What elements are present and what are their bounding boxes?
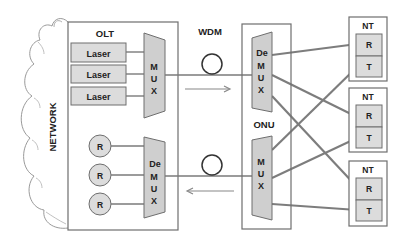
laser-3: Laser (71, 87, 126, 105)
onu-mux: M U X (252, 136, 272, 220)
svg-text:X: X (258, 85, 264, 95)
wdm-label: WDM (198, 26, 222, 37)
olt-label: OLT (96, 28, 114, 39)
receiver-2: R (89, 164, 111, 186)
cloud-outline (21, 19, 68, 229)
receiver-3: R (89, 193, 111, 215)
distribution-lines (272, 44, 357, 210)
svg-text:U: U (151, 184, 158, 194)
svg-text:R: R (366, 40, 372, 50)
nt-3: NT R T (349, 161, 387, 226)
svg-text:M: M (257, 61, 265, 71)
olt-demux: De M U X (144, 137, 165, 218)
nt-1: NT R T (349, 17, 387, 81)
svg-text:R: R (97, 142, 103, 152)
svg-text:X: X (151, 86, 157, 96)
svg-text:De: De (256, 48, 268, 58)
wdm-pon-diagram: NETWORK OLT Laser Laser Laser M U X (0, 0, 397, 243)
olt-mux: M U X (144, 33, 165, 118)
svg-text:T: T (366, 206, 372, 216)
svg-text:M: M (257, 157, 265, 167)
downstream-arrow-icon (185, 86, 230, 92)
nt-label: NT (362, 92, 374, 102)
receiver-1: R (89, 135, 111, 157)
svg-text:R: R (366, 111, 372, 121)
laser-1: Laser (71, 43, 126, 62)
network-label: NETWORK (47, 102, 58, 151)
nt-2: NT R T (349, 88, 387, 152)
svg-text:U: U (151, 74, 158, 84)
line-demux-nt1-r (272, 44, 357, 55)
svg-text:De: De (149, 159, 161, 169)
laser-2: Laser (71, 65, 126, 83)
line-mux-nt3-t (272, 204, 357, 210)
svg-text:U: U (258, 73, 265, 83)
olt: OLT Laser Laser Laser M U X R (68, 22, 178, 230)
svg-text:Laser: Laser (86, 70, 111, 80)
svg-text:M: M (150, 62, 158, 72)
svg-text:Laser: Laser (86, 49, 111, 59)
svg-text:R: R (366, 184, 372, 194)
fiber-spool-icon (202, 155, 222, 175)
svg-text:T: T (366, 62, 372, 72)
svg-text:R: R (97, 171, 103, 181)
svg-text:T: T (366, 133, 372, 143)
network-cloud: NETWORK (21, 19, 68, 229)
onu: ONU De M U X M U X (242, 24, 291, 229)
svg-text:Laser: Laser (86, 92, 111, 102)
upstream-arrow-icon (187, 188, 234, 194)
onu-label: ONU (253, 119, 274, 130)
svg-text:R: R (97, 200, 103, 210)
nt-label: NT (362, 21, 374, 31)
svg-text:X: X (151, 196, 157, 206)
svg-text:U: U (258, 169, 265, 179)
svg-text:X: X (258, 181, 264, 191)
onu-demux: De M U X (252, 32, 272, 112)
nt-label: NT (362, 165, 374, 175)
fiber-spool-icon (202, 54, 222, 74)
svg-text:M: M (150, 172, 158, 182)
